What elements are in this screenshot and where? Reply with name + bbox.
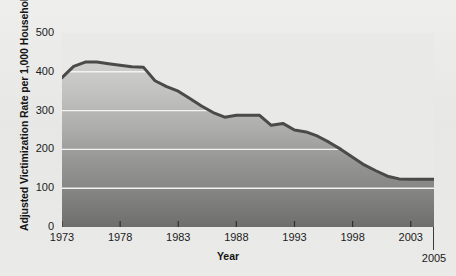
x-tick-label: 2003: [399, 231, 423, 243]
chart-figure: Adjusted Victimization Rate per 1,000 Ho…: [0, 0, 456, 276]
x-tick-label: 1983: [166, 231, 190, 243]
x-tick-label: 1978: [108, 231, 132, 243]
x-tick-label: 1973: [50, 231, 74, 243]
x-tick-label: 1988: [224, 231, 248, 243]
x-axis-tick-labels: 19731978198319881993199820032005: [0, 0, 456, 276]
x-tick-label: 1998: [340, 231, 364, 243]
x-tick-label: 1993: [282, 231, 306, 243]
x-axis-title: Year: [0, 250, 456, 262]
